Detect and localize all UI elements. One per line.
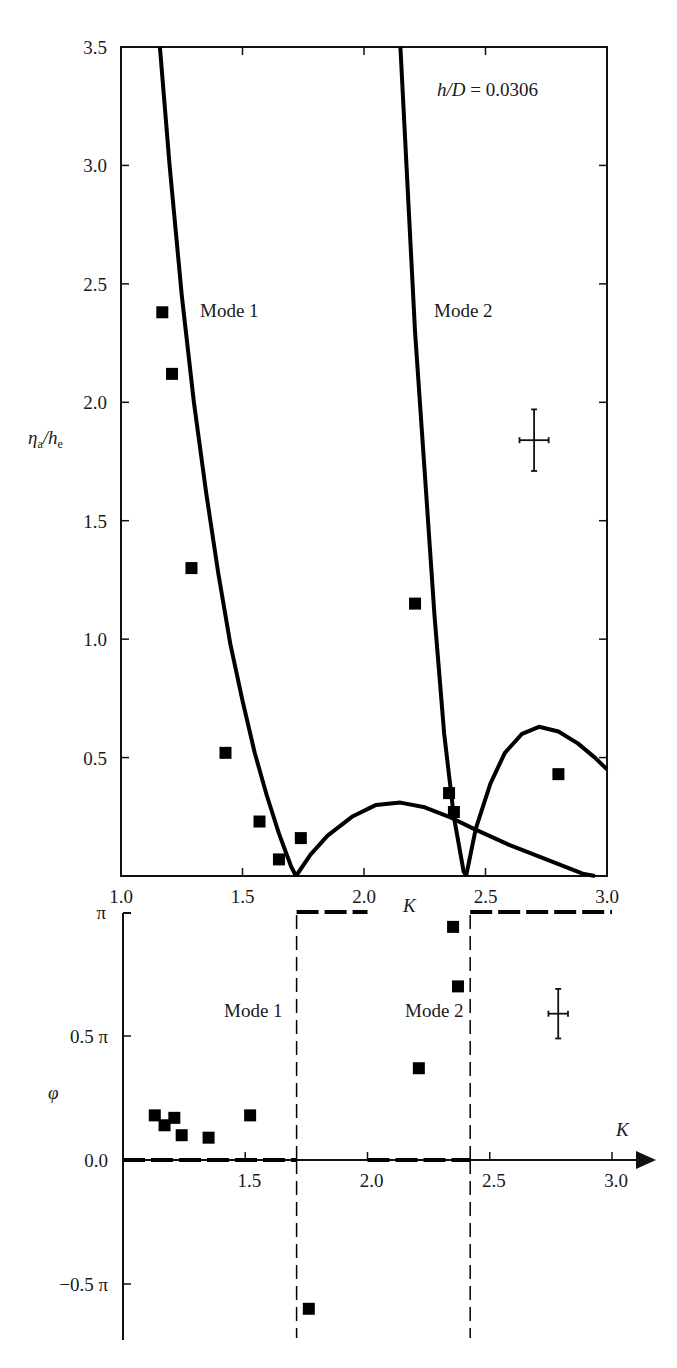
top-y-tick-label: 2.5 [83, 274, 107, 295]
data-point [447, 921, 459, 933]
top-y-tick-label: 3.0 [83, 155, 107, 176]
data-point [443, 787, 455, 799]
bottom-y-axis-label: φ [48, 1082, 59, 1103]
bottom-x-tick-label: 3.0 [604, 1170, 628, 1191]
bottom-mode1-label: Mode 1 [224, 1000, 283, 1021]
data-point [273, 853, 285, 865]
bottom-error-bar [548, 989, 568, 1039]
data-point [168, 1112, 180, 1124]
data-point [303, 1303, 315, 1315]
top-annotation: h/D = 0.0306 [437, 79, 538, 100]
bottom-x-tick-label: 2.5 [482, 1170, 506, 1191]
data-point [413, 1062, 425, 1074]
bottom-mode2-label: Mode 2 [405, 1000, 464, 1021]
top-x-tick-label: 1.5 [231, 886, 255, 907]
top-y-tick-label: 2.0 [83, 392, 107, 413]
top-x-tick-label: 2.0 [352, 886, 376, 907]
top-x-ticks: 1.01.52.02.53.0 [109, 47, 619, 907]
data-point [166, 368, 178, 380]
annotation-value: = 0.0306 [466, 79, 538, 100]
data-point [452, 980, 464, 992]
top-x-axis-label: K [402, 895, 417, 916]
theory-curve [400, 47, 466, 876]
bottom-y-ticks: −0.5 π0.00.5 ππ [59, 902, 131, 1295]
data-point [295, 832, 307, 844]
top-data-points [156, 306, 564, 865]
top-y-tick-label: 3.5 [83, 37, 107, 58]
data-point [552, 768, 564, 780]
data-point [254, 816, 266, 828]
bottom-x-axis-label: K [615, 1119, 630, 1140]
bottom-data-points [149, 921, 464, 1315]
top-y-tick-label: 1.0 [83, 629, 107, 650]
bottom-theory-curves [123, 912, 612, 1338]
data-point [176, 1129, 188, 1141]
top-mode2-label: Mode 2 [434, 300, 493, 321]
top-x-tick-label: 3.0 [595, 886, 619, 907]
ylabel-sub-e: e [58, 437, 63, 451]
top-y-tick-label: 1.5 [83, 511, 107, 532]
top-error-bar [520, 409, 549, 471]
data-point [244, 1109, 256, 1121]
top-x-tick-label: 2.5 [474, 886, 498, 907]
bottom-x-tick-label: 2.0 [360, 1170, 384, 1191]
data-point [219, 747, 231, 759]
phase-panel: 1.52.02.53.0 −0.5 π0.00.5 ππ Mode 1 Mode… [48, 902, 656, 1340]
data-point [203, 1132, 215, 1144]
figure: 1.01.52.02.53.0 0.51.01.52.02.53.03.5 h/… [0, 0, 677, 1368]
bottom-y-tick-label: 0.0 [84, 1150, 108, 1171]
top-x-tick-label: 1.0 [109, 886, 133, 907]
top-y-axis-label: ηa/he [28, 427, 63, 451]
data-point [448, 806, 460, 818]
top-mode1-label: Mode 1 [200, 300, 259, 321]
bottom-y-tick-label: −0.5 π [59, 1274, 108, 1295]
data-point [156, 306, 168, 318]
ylabel-eta: η [28, 427, 37, 448]
top-y-tick-label: 0.5 [83, 748, 107, 769]
annotation-variable: h/D [437, 79, 466, 100]
data-point [185, 562, 197, 574]
bottom-x-tick-label: 1.5 [237, 1170, 261, 1191]
top-y-ticks: 0.51.01.52.02.53.03.5 [83, 37, 607, 769]
amplitude-panel: 1.01.52.02.53.0 0.51.01.52.02.53.03.5 h/… [28, 37, 619, 916]
bottom-y-tick-label: π [96, 902, 106, 923]
data-point [409, 598, 421, 610]
x-axis-arrow-icon [636, 1151, 656, 1169]
bottom-y-tick-label: 0.5 π [70, 1026, 109, 1047]
theory-curve [296, 803, 595, 876]
ylabel-slash-h: /h [42, 427, 58, 448]
